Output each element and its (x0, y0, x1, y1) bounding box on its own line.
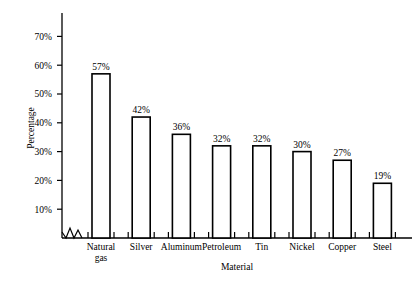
chart-canvas: 10%20%30%40%50%60%70% 57%42%36%32%32%30%… (0, 0, 419, 281)
bar-value-label: 57% (92, 62, 110, 72)
y-tick-label: 60% (35, 61, 53, 71)
category-label-line: Aluminum (161, 242, 203, 252)
category-label: Silver (130, 242, 154, 252)
bar-value-label: 32% (213, 134, 231, 144)
y-axis-ticks: 10%20%30%40%50%60%70% (35, 32, 62, 215)
y-tick-label: 40% (35, 118, 53, 128)
bar-value-label: 32% (253, 134, 271, 144)
category-label-line: Silver (130, 242, 154, 252)
bar (293, 152, 311, 238)
category-label: Petroleum (202, 242, 242, 252)
bar-value-label: 27% (333, 148, 351, 158)
y-tick-label: 20% (35, 176, 53, 186)
category-label-line: Copper (328, 242, 357, 252)
bar (92, 74, 110, 238)
axes (62, 13, 412, 238)
category-label-line: Tin (255, 242, 268, 252)
y-tick-label: 70% (35, 32, 53, 42)
category-label-line: gas (95, 253, 108, 263)
category-label: Copper (328, 242, 357, 252)
y-axis-title: Percentage (26, 107, 36, 149)
y-tick-label: 50% (35, 89, 53, 99)
x-axis-title: Material (221, 262, 254, 272)
category-labels: NaturalgasSilverAluminumPetroleumTinNick… (87, 242, 393, 263)
bar (213, 146, 231, 238)
bar-value-label: 42% (132, 105, 150, 115)
category-label-line: Petroleum (202, 242, 242, 252)
bar-value-label: 19% (374, 171, 392, 181)
category-label: Nickel (289, 242, 315, 252)
category-label-line: Nickel (289, 242, 315, 252)
category-label: Aluminum (161, 242, 203, 252)
bar (373, 183, 391, 238)
bar-value-label: 30% (293, 140, 311, 150)
bar-chart: 10%20%30%40%50%60%70% 57%42%36%32%32%30%… (0, 0, 419, 281)
category-label: Tin (255, 242, 268, 252)
bar (172, 134, 190, 238)
y-tick-label: 30% (35, 147, 53, 157)
y-tick-label: 10% (35, 205, 53, 215)
category-label-line: Steel (373, 242, 392, 252)
bar (333, 160, 351, 238)
category-label: Naturalgas (87, 242, 116, 263)
category-label-line: Natural (87, 242, 116, 252)
bar-value-label: 36% (173, 122, 191, 132)
bar (253, 146, 271, 238)
axis-break-icon (62, 228, 82, 238)
category-label: Steel (373, 242, 392, 252)
bar (132, 117, 150, 238)
